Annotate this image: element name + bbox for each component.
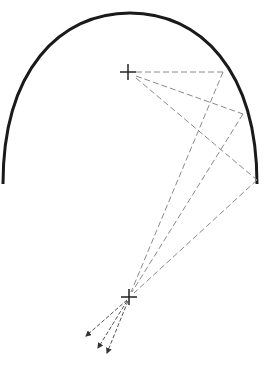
reflected-ray-3 (134, 180, 257, 293)
reflected-ray-2 (132, 114, 243, 292)
lower-focus-marker (121, 289, 137, 305)
incident-ray-2 (136, 76, 243, 114)
elliptical-mirror (3, 13, 257, 184)
ellipse-reflector-diagram (0, 0, 270, 366)
diverging-ray-2 (98, 301, 127, 348)
reflected-rays (131, 72, 257, 293)
diverging-rays (86, 300, 128, 353)
upper-focus-marker (120, 64, 136, 80)
incident-ray-3 (136, 78, 257, 180)
reflected-ray-1 (131, 72, 223, 292)
